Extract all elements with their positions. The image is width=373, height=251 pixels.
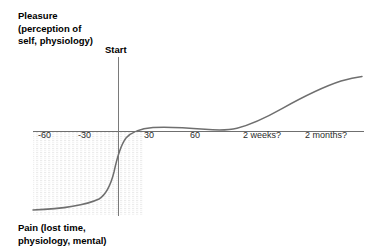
y-axis-bottom-label: Pain (lost time, physiology, mental): [18, 222, 107, 247]
x-tick-label-two-weeks: 2 weeks?: [243, 130, 281, 140]
plot-area: [0, 0, 373, 251]
x-tick-label-minus30: -30: [78, 130, 91, 140]
x-tick-label-minus60: -60: [38, 130, 51, 140]
x-tick-label-60: 60: [190, 130, 200, 140]
figure-canvas: Pleasure (perception of self, physiology…: [0, 0, 373, 251]
x-tick-label-two-months: 2 months?: [305, 130, 347, 140]
x-tick-label-30: 30: [144, 130, 154, 140]
